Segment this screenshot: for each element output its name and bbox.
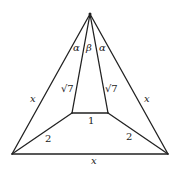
apex-point bbox=[89, 13, 92, 16]
inner-base-label: 1 bbox=[88, 115, 94, 126]
lower-right-length-label: 2 bbox=[126, 131, 132, 142]
inner-left-length-label: √7 bbox=[61, 83, 74, 94]
angle-left-label: α bbox=[73, 42, 80, 53]
lower-left-length-label: 2 bbox=[45, 133, 51, 144]
angle-middle-label: β bbox=[85, 42, 92, 53]
left-side-label: x bbox=[30, 93, 36, 104]
geometry-diagram: α β α √7 √7 x x x 1 2 2 bbox=[0, 0, 179, 174]
right-side-label: x bbox=[144, 93, 150, 104]
lower-right-segment bbox=[108, 113, 168, 154]
angle-right-label: α bbox=[99, 42, 106, 53]
base-label: x bbox=[91, 155, 97, 166]
inner-right-length-label: √7 bbox=[105, 83, 118, 94]
lower-left-segment bbox=[12, 113, 72, 154]
